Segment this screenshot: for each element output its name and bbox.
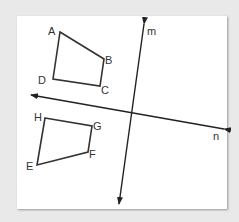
line-n xyxy=(31,95,224,129)
label-h: H xyxy=(34,111,42,123)
label-n: n xyxy=(213,130,219,142)
label-d: D xyxy=(38,74,46,86)
label-e: E xyxy=(26,160,33,172)
label-g: G xyxy=(93,120,102,132)
label-c: C xyxy=(101,84,109,96)
label-a: A xyxy=(48,25,56,37)
quadrilateral-abcd xyxy=(53,32,104,86)
diagram-canvas: A B C D E F G H m n xyxy=(0,0,239,222)
label-f: F xyxy=(89,148,96,160)
label-m: m xyxy=(147,25,156,37)
label-b: B xyxy=(105,54,112,66)
quadrilateral-efgh xyxy=(37,118,92,165)
